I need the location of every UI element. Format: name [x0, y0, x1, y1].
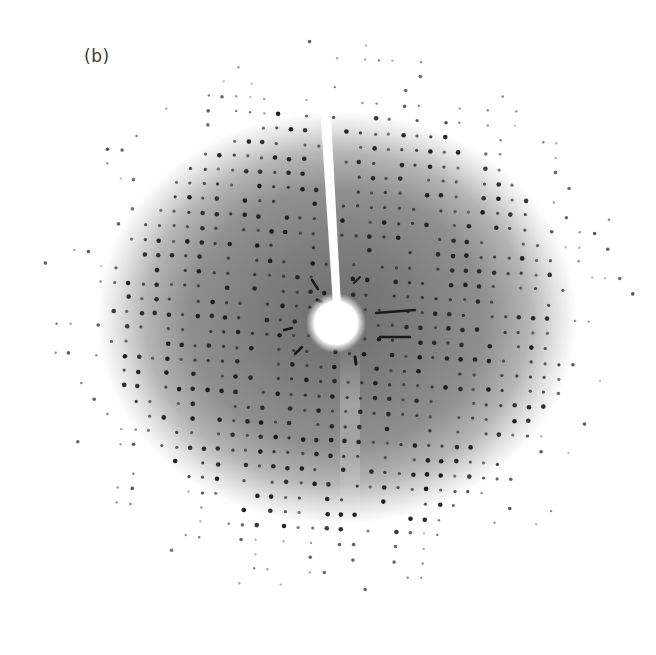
diffraction-spot — [412, 208, 415, 211]
diffraction-spot — [158, 224, 161, 227]
diffraction-spot — [473, 373, 476, 376]
diffraction-spot — [415, 414, 418, 417]
diffraction-spot — [480, 210, 485, 215]
diffraction-spot — [219, 389, 224, 394]
diffraction-spot — [154, 297, 159, 302]
diffraction-spot — [277, 333, 282, 338]
diffraction-spot — [260, 406, 265, 411]
diffraction-spot — [496, 212, 499, 215]
diffraction-spot — [485, 432, 488, 435]
diffraction-spot — [285, 215, 290, 220]
diffraction-spot — [493, 255, 496, 258]
diffraction-spot — [512, 419, 517, 424]
diffraction-spot — [482, 476, 485, 479]
diffraction-spot — [578, 247, 580, 249]
diffraction-spot — [179, 343, 184, 348]
diffraction-spot — [526, 434, 529, 437]
diffraction-spot — [253, 273, 256, 276]
diffraction-spot — [113, 281, 116, 284]
diffraction-spot — [292, 334, 295, 337]
diffraction-spot — [507, 272, 510, 275]
diffraction-spot — [378, 59, 380, 61]
diffraction-spot — [207, 343, 212, 348]
diffraction-spot — [233, 153, 236, 156]
diffraction-spot — [227, 257, 230, 260]
diffraction-spot — [311, 527, 314, 530]
diffraction-spot — [142, 283, 145, 286]
diffraction-spot — [332, 365, 337, 370]
diffraction-spot — [523, 229, 526, 232]
diffraction-spot — [446, 326, 451, 331]
diffraction-spot — [382, 485, 387, 490]
diffraction-spot — [422, 562, 424, 564]
diffraction-spot — [255, 494, 260, 499]
diffraction-spot — [197, 300, 200, 303]
diffraction-spot — [520, 256, 525, 261]
diffraction-spot — [135, 384, 140, 389]
diffraction-spot — [591, 276, 593, 278]
diffraction-spot — [262, 391, 265, 394]
diffraction-spot — [398, 207, 401, 210]
diffraction-spot — [486, 387, 491, 392]
diffraction-spot — [472, 388, 475, 391]
diffraction-spot — [428, 164, 433, 169]
diffraction-spot — [143, 252, 148, 257]
diffraction-spot — [314, 188, 319, 193]
diffraction-spot — [332, 116, 335, 119]
diffraction-spot — [334, 86, 336, 88]
diffraction-spot — [237, 316, 240, 319]
diffraction-spot — [370, 191, 373, 194]
diffraction-spot — [198, 536, 200, 538]
diffraction-spot — [483, 166, 488, 171]
diffraction-spot — [373, 381, 378, 386]
diffraction-spot — [477, 284, 482, 289]
diffraction-spot — [445, 356, 450, 361]
diffraction-spot — [398, 176, 403, 181]
diffraction-spot — [200, 226, 205, 231]
diffraction-spot — [135, 400, 138, 403]
diffraction-spot — [356, 440, 361, 445]
diffraction-spot — [305, 364, 308, 367]
diffraction-spot — [359, 397, 362, 400]
diffraction-spot — [175, 181, 178, 184]
diffraction-spot — [535, 523, 537, 525]
diffraction-spot — [510, 184, 513, 187]
diffraction-spot — [421, 311, 424, 314]
diffraction-spot — [302, 156, 307, 161]
diffraction-spot — [515, 110, 517, 112]
diffraction-spot — [268, 508, 273, 513]
diffraction-spot — [55, 323, 57, 325]
diffraction-spot — [480, 256, 483, 259]
diffraction-spot — [282, 290, 285, 293]
diffraction-spot — [230, 183, 233, 186]
diffraction-spot — [434, 326, 437, 329]
diffraction-spot — [339, 512, 344, 517]
diffraction-spot — [186, 225, 189, 228]
diffraction-spot — [100, 265, 102, 267]
diffraction-spot — [469, 461, 472, 464]
diffraction-spot — [175, 431, 178, 434]
diffraction-spot — [312, 232, 315, 235]
diffraction-spot — [351, 277, 356, 282]
diffraction-spot — [481, 196, 486, 201]
diffraction-spot — [456, 430, 459, 433]
diffraction-spot — [374, 116, 379, 121]
diffraction-spot — [438, 238, 441, 241]
diffraction-spot — [411, 222, 414, 225]
diffraction-spot — [303, 144, 306, 147]
diffraction-spot — [367, 248, 372, 253]
diffraction-spot — [344, 425, 347, 428]
diffraction-spot — [498, 169, 501, 172]
diffraction-spot — [238, 582, 240, 584]
diffraction-spot — [413, 164, 416, 167]
diffraction-spot — [355, 234, 358, 237]
diffraction-spot — [504, 331, 507, 334]
diffraction-spot — [175, 446, 178, 449]
diffraction-spot — [132, 178, 136, 182]
diffraction-spot — [209, 330, 212, 333]
diffraction-spot — [500, 139, 502, 141]
diffraction-spot — [190, 431, 193, 434]
panel-label: (b) — [84, 46, 110, 66]
diffraction-spot — [236, 330, 241, 335]
diffraction-spot — [325, 263, 328, 266]
